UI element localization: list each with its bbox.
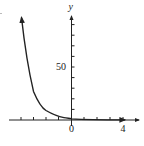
curve-line: [22, 18, 126, 120]
chart-canvas: y 50 0 4: [0, 0, 144, 146]
stray-mark: [0, 13, 2, 14]
x-tick-label-4: 4: [121, 123, 126, 134]
x-tick-label-0: 0: [69, 123, 74, 134]
y-tick-label-50: 50: [56, 61, 66, 72]
y-axis-label: y: [68, 1, 74, 12]
